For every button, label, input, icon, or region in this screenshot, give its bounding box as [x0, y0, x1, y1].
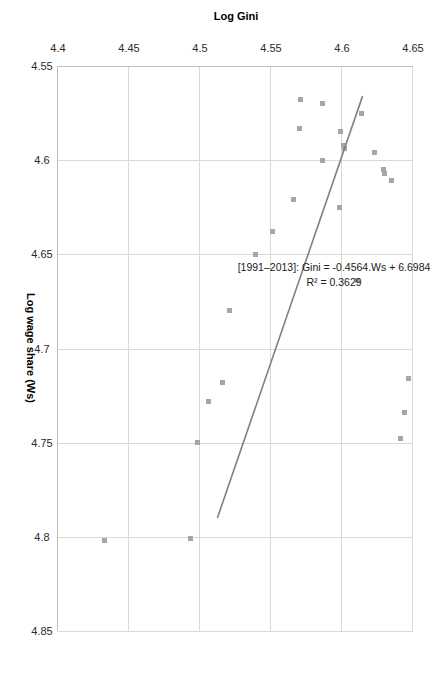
- regression-r2: R² = 0.3629: [238, 275, 431, 290]
- regression-annotation: [1991–2013]: Gini = -0.4564.Ws + 6.6984 …: [238, 260, 431, 290]
- y-tick-label: 4.65: [401, 42, 425, 54]
- y-tick-labels: 4.44.454.54.554.64.65: [0, 0, 442, 685]
- regression-equation: [1991–2013]: Gini = -0.4564.Ws + 6.6984: [238, 261, 431, 273]
- y-tick-label: 4.6: [330, 42, 354, 54]
- y-tick-label: 4.5: [188, 42, 212, 54]
- y-axis-title: Log Gini: [214, 10, 259, 22]
- chart-page: 4.554.64.654.74.754.84.85 4.44.454.54.55…: [0, 0, 442, 685]
- chart-figure: 4.554.64.654.74.754.84.85 4.44.454.54.55…: [0, 0, 442, 685]
- y-tick-label: 4.4: [46, 42, 70, 54]
- x-axis-title: Log wage share (Ws): [25, 293, 37, 403]
- y-tick-label: 4.45: [117, 42, 141, 54]
- rotated-figure-wrapper: 4.554.64.654.74.754.84.85 4.44.454.54.55…: [0, 0, 442, 685]
- y-tick-label: 4.55: [259, 42, 283, 54]
